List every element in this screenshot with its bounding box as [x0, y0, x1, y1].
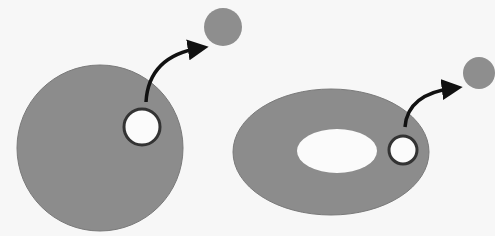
- right-released-particle: [463, 57, 495, 89]
- right-cell-group: [233, 57, 495, 215]
- left-cell-group: [17, 8, 242, 231]
- diagram-svg: [0, 0, 495, 236]
- right-inner-cavity: [297, 129, 377, 173]
- right-vesicle-hole: [389, 136, 417, 164]
- diagram-canvas: [0, 0, 495, 236]
- left-cell-body: [17, 65, 183, 231]
- left-released-particle: [204, 8, 242, 46]
- left-vesicle-hole: [124, 109, 160, 145]
